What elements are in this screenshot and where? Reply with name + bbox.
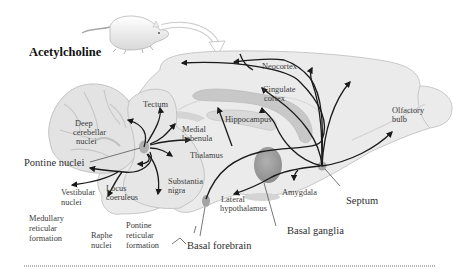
label-medullary-rf-2: reticular <box>29 224 57 233</box>
label-medial-habenula-1: Medial <box>182 125 206 134</box>
label-raphe-nuclei-2: nuclei <box>91 241 112 250</box>
label-vestibular-nuclei-1: Vestibular <box>61 188 95 197</box>
label-septum: Septum <box>346 195 378 206</box>
label-tectum: Tectum <box>143 100 168 109</box>
diagram-title: Acetylcholine <box>29 45 102 59</box>
label-medial-habenula-2: habenula <box>182 134 213 143</box>
label-pontine-rf-2: reticular <box>126 231 154 240</box>
acetylcholine-pathway-diagram: Acetylcholine <box>0 0 453 270</box>
label-deep-cerebellar-3: nuclei <box>76 137 97 146</box>
label-basal-forebrain: Basal forebrain <box>187 240 252 251</box>
label-olfactory-bulb-1: Olfactory <box>392 106 425 115</box>
label-lateral-hypothalamus-2: hypothalamus <box>220 204 267 213</box>
label-vestibular-nuclei-2: nuclei <box>61 198 82 207</box>
label-deep-cerebellar-1: Deep <box>75 119 93 128</box>
label-substantia-nigra-1: Substantia <box>168 177 203 186</box>
label-pontine-rf-3: formation <box>126 241 160 250</box>
label-deep-cerebellar-2: cerebellar <box>73 128 106 137</box>
label-medullary-rf-1: Medullary <box>29 214 65 223</box>
label-amygdala: Amygdala <box>282 188 317 197</box>
amygdala-region <box>244 193 280 201</box>
label-pontine-nuclei: Pontine nuclei <box>24 157 84 168</box>
label-pontine-rf-1: Pontine <box>126 221 152 230</box>
label-locus-coeruleus-2: coeruleus <box>106 193 138 202</box>
label-thalamus: Thalamus <box>190 151 223 160</box>
label-basal-ganglia: Basal ganglia <box>287 225 344 236</box>
label-olfactory-bulb-2: bulb <box>392 115 407 124</box>
label-raphe-nuclei-1: Raphe <box>91 231 113 240</box>
rat-to-brain-arrow <box>162 25 225 55</box>
label-cingulate-cortex-2: cortex <box>264 94 286 103</box>
label-medullary-rf-3: formation <box>29 234 63 243</box>
label-substantia-nigra-2: nigra <box>168 186 185 195</box>
label-locus-coeruleus-1: Locus <box>106 184 126 193</box>
label-cingulate-cortex-1: Cingulate <box>263 85 296 94</box>
basal-forebrain-nucleus <box>202 195 210 207</box>
label-neocortex: Neocortex <box>262 62 298 71</box>
label-lateral-hypothalamus-1: Lateral <box>221 195 245 204</box>
label-hippocampus: Hippocampus <box>225 115 272 124</box>
